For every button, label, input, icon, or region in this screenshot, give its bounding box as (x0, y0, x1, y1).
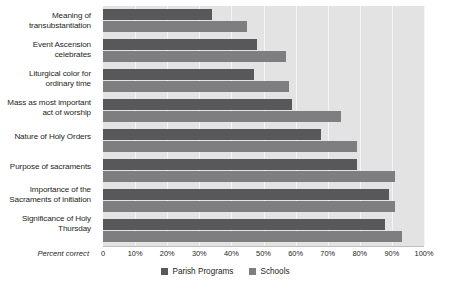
gridline (424, 6, 425, 246)
x-axis-tick-label: 100% (409, 249, 439, 258)
legend: Parish Programs Schools (0, 267, 451, 276)
bar (103, 129, 321, 140)
chart-title-cropped (0, 0, 451, 5)
bar (103, 69, 254, 80)
category-label-line: Significance of Holy (22, 214, 91, 223)
bar (103, 21, 247, 32)
category-label: Purpose of sacraments (0, 162, 91, 172)
category-label: Mass as most important act of worship (0, 98, 91, 117)
category-label: Liturgical color for ordinary time (0, 69, 91, 88)
x-axis-line (103, 246, 424, 247)
bar (103, 219, 385, 230)
category-label: Meaning of transubstantiation (0, 11, 91, 30)
legend-label: Schools (260, 267, 289, 276)
bar (103, 111, 341, 122)
category-label-line: celebrates (55, 50, 91, 59)
category-label-line: Nature of Holy Orders (14, 132, 91, 141)
x-axis-tick-label: 0 (88, 249, 118, 258)
category-label-line: Meaning of (52, 11, 91, 20)
x-axis-tick-label: 20% (152, 249, 182, 258)
x-axis-tick-label: 90% (377, 249, 407, 258)
category-label: Event Ascension celebrates (0, 40, 91, 59)
bar (103, 81, 289, 92)
bar (103, 9, 212, 20)
category-label-line: Importance of the (30, 185, 91, 194)
category-label-line: ordinary time (46, 79, 91, 88)
plot-area (103, 6, 424, 246)
x-axis-tick-label: 40% (216, 249, 246, 258)
bar-chart: Meaning of transubstantiation Event Asce… (0, 0, 451, 293)
bar (103, 171, 395, 182)
x-axis-tick-label: 30% (184, 249, 214, 258)
category-label-line: Liturgical color for (29, 69, 91, 78)
category-label-line: Event Ascension (33, 40, 91, 49)
category-label-line: Thursday (58, 224, 91, 233)
legend-item-parish-programs: Parish Programs (161, 267, 233, 276)
bar (103, 51, 286, 62)
category-label-line: Sacraments of initiation (9, 195, 91, 204)
legend-swatch-icon (161, 268, 168, 275)
bar (103, 141, 357, 152)
category-label: Nature of Holy Orders (0, 132, 91, 142)
bar (103, 201, 395, 212)
x-axis-tick-label: 60% (281, 249, 311, 258)
x-axis-tick-label: 10% (120, 249, 150, 258)
legend-swatch-icon (249, 268, 256, 275)
bar (103, 159, 357, 170)
category-label-line: transubstantiation (29, 21, 91, 30)
x-axis-title: Percent correct (38, 249, 90, 258)
bar (103, 189, 389, 200)
category-label-line: act of worship (42, 108, 91, 117)
category-label: Significance of Holy Thursday (0, 214, 91, 233)
legend-label: Parish Programs (172, 267, 233, 276)
legend-item-schools: Schools (249, 267, 289, 276)
category-label-line: Mass as most important (7, 98, 91, 107)
x-axis-tick-label: 50% (249, 249, 279, 258)
x-axis-tick-label: 80% (345, 249, 375, 258)
bar (103, 231, 402, 242)
category-label-column: Meaning of transubstantiation Event Asce… (0, 6, 97, 246)
category-label: Importance of the Sacraments of initiati… (0, 185, 91, 204)
bar (103, 39, 257, 50)
x-axis-tick-label: 70% (313, 249, 343, 258)
category-label-line: Purpose of sacraments (10, 162, 91, 171)
bar (103, 99, 292, 110)
